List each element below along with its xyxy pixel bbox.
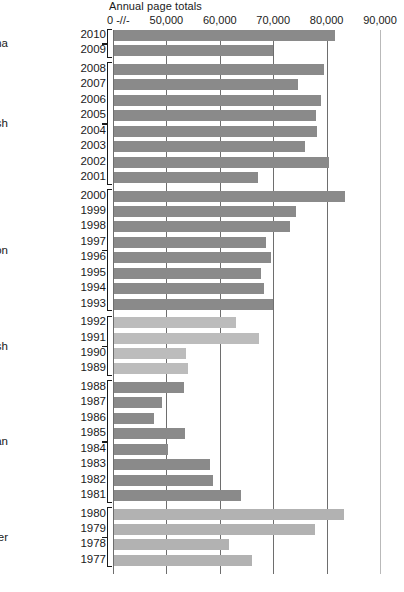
bar-1980 — [114, 509, 344, 520]
bar-1983 — [114, 459, 210, 470]
bar-row — [114, 126, 317, 137]
year-label-1981: 1981 — [66, 488, 106, 500]
bar-2010 — [114, 30, 335, 41]
year-label-1984: 1984 — [66, 442, 106, 454]
bar-row — [114, 555, 252, 566]
bar-1987 — [114, 397, 162, 408]
year-label-1995: 1995 — [66, 266, 106, 278]
year-label-2005: 2005 — [66, 108, 106, 120]
year-label-1983: 1983 — [66, 457, 106, 469]
bar-row — [114, 64, 324, 75]
year-labels-column: 2010200920082007200620052004200320022001… — [64, 30, 106, 583]
year-label-2004: 2004 — [66, 124, 106, 136]
x-tick-label-60000: 60,000 — [203, 14, 237, 26]
bar-1986 — [114, 413, 154, 424]
year-label-1987: 1987 — [66, 395, 106, 407]
bar-row — [114, 317, 236, 328]
year-label-2010: 2010 — [66, 28, 106, 40]
year-label-1996: 1996 — [66, 250, 106, 262]
year-label-1991: 1991 — [66, 331, 106, 343]
bar-2007 — [114, 79, 298, 90]
bar-1996 — [114, 252, 271, 263]
bar-row — [114, 459, 210, 470]
bar-1985 — [114, 428, 185, 439]
bar-2003 — [114, 141, 305, 152]
bar-2008 — [114, 64, 324, 75]
year-label-1998: 1998 — [66, 219, 106, 231]
year-label-1982: 1982 — [66, 473, 106, 485]
year-label-2000: 2000 — [66, 189, 106, 201]
bar-row — [114, 363, 188, 374]
year-label-1992: 1992 — [66, 315, 106, 327]
year-label-1979: 1979 — [66, 522, 106, 534]
year-label-1978: 1978 — [66, 537, 106, 549]
bar-1989 — [114, 363, 188, 374]
year-label-1986: 1986 — [66, 411, 106, 423]
bar-2001 — [114, 172, 258, 183]
bar-2002 — [114, 157, 329, 168]
bar-row — [114, 237, 266, 248]
annual-page-totals-chart: Annual page totals 0 -//-50,00060,00070,… — [0, 0, 404, 592]
bar-row — [114, 45, 273, 56]
year-label-2009: 2009 — [66, 43, 106, 55]
year-label-1985: 1985 — [66, 426, 106, 438]
year-label-2008: 2008 — [66, 62, 106, 74]
group-name-ghwbush: G.H.W. Bush — [0, 340, 8, 352]
bar-row — [114, 268, 261, 279]
year-label-1993: 1993 — [66, 297, 106, 309]
bar-row — [114, 490, 241, 501]
bar-1994 — [114, 283, 264, 294]
year-label-2003: 2003 — [66, 139, 106, 151]
bar-row — [114, 524, 315, 535]
year-label-1997: 1997 — [66, 235, 106, 247]
x-tick-label-50000: 50,000 — [150, 14, 184, 26]
bar-row — [114, 172, 258, 183]
bar-2004 — [114, 126, 317, 137]
bar-1984 — [114, 444, 168, 455]
bar-row — [114, 141, 305, 152]
bar-1991 — [114, 333, 259, 344]
bar-row — [114, 283, 264, 294]
bar-1999 — [114, 206, 296, 217]
year-label-2006: 2006 — [66, 93, 106, 105]
bar-2009 — [114, 45, 273, 56]
group-name-obama: Obama — [0, 37, 8, 49]
year-label-1988: 1988 — [66, 380, 106, 392]
year-label-2002: 2002 — [66, 155, 106, 167]
bar-row — [114, 157, 329, 168]
bar-row — [114, 110, 316, 121]
bar-2005 — [114, 110, 316, 121]
year-label-1989: 1989 — [66, 361, 106, 373]
bar-1981 — [114, 490, 241, 501]
bar-1988 — [114, 382, 184, 393]
year-label-1980: 1980 — [66, 507, 106, 519]
group-name-carter: Carter — [0, 531, 8, 543]
bar-row — [114, 413, 154, 424]
plot-area — [113, 30, 404, 574]
bar-1977 — [114, 555, 252, 566]
bar-2000 — [114, 191, 345, 202]
bar-row — [114, 444, 168, 455]
year-label-2001: 2001 — [66, 170, 106, 182]
bar-1995 — [114, 268, 261, 279]
bar-row — [114, 397, 162, 408]
year-label-1990: 1990 — [66, 346, 106, 358]
bar-row — [114, 30, 335, 41]
year-label-1994: 1994 — [66, 281, 106, 293]
x-axis-tick-labels: 0 -//-50,00060,00070,00080,00090,000 — [0, 14, 404, 29]
gridline-80000 — [327, 30, 328, 574]
year-label-1977: 1977 — [66, 553, 106, 565]
bar-1993 — [114, 299, 273, 310]
year-label-1999: 1999 — [66, 204, 106, 216]
bar-row — [114, 333, 259, 344]
year-label-2007: 2007 — [66, 77, 106, 89]
bar-row — [114, 299, 273, 310]
chart-title: Annual page totals — [109, 0, 202, 12]
bar-1978 — [114, 539, 229, 550]
group-name-gwbush: G.W. Bush — [0, 117, 8, 129]
bar-row — [114, 509, 344, 520]
x-tick-label-90000: 90,000 — [363, 14, 397, 26]
bar-1998 — [114, 221, 290, 232]
bar-row — [114, 191, 345, 202]
bar-row — [114, 206, 296, 217]
